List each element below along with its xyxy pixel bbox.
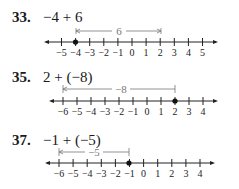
number-line: −5 −6−5−4−3−2−101234	[0, 145, 239, 185]
tick-label: −5	[68, 168, 79, 179]
end-point-dot	[126, 160, 131, 165]
tick-label: −3	[100, 106, 111, 117]
tick-label: −5	[72, 106, 83, 117]
tick-label: 0	[130, 47, 135, 58]
tick-label: 1	[144, 47, 149, 58]
start-point-dot	[73, 39, 78, 44]
tick-label: 2	[158, 47, 163, 58]
tick-label: −4	[82, 168, 93, 179]
tick-label: −2	[114, 106, 125, 117]
tick-label: −5	[56, 47, 67, 58]
tick-label: −2	[98, 47, 109, 58]
problem-expression: −4 + 6	[43, 10, 82, 25]
axis	[44, 40, 218, 44]
tick-label: −4	[70, 47, 81, 58]
tick-label: 4	[198, 168, 203, 179]
end-point-dot	[172, 98, 177, 103]
tick-label: 3	[172, 47, 177, 58]
number-line: 6 −5−4−3−2−1012345	[0, 24, 239, 64]
tick-label: −4	[86, 106, 97, 117]
tick-label: 1	[155, 168, 160, 179]
tick-label: 3	[187, 106, 192, 117]
tick-label: −6	[58, 106, 69, 117]
tick-label: −1	[113, 47, 124, 58]
tick-label: 4	[201, 106, 206, 117]
tick-label: −3	[96, 168, 107, 179]
tick-label: 0	[145, 106, 150, 117]
jump-label: 6	[116, 25, 122, 37]
tick-label: −2	[110, 168, 121, 179]
tick-label: −6	[54, 168, 65, 179]
jump-label: −8	[115, 83, 127, 95]
tick-label: 0	[141, 168, 146, 179]
jump-label: −5	[88, 146, 100, 158]
number-line: −8 −6−5−4−3−2−101234	[0, 83, 239, 123]
tick-label: −3	[84, 47, 95, 58]
tick-label: 4	[186, 47, 191, 58]
tick-label: 1	[159, 106, 164, 117]
tick-label: 5	[200, 47, 205, 58]
tick-label: 2	[169, 168, 174, 179]
tick-label: 3	[183, 168, 188, 179]
tick-label: −1	[128, 106, 139, 117]
tick-label: −1	[124, 168, 135, 179]
problem-number: 33.	[12, 10, 31, 25]
tick-label: 2	[173, 106, 178, 117]
